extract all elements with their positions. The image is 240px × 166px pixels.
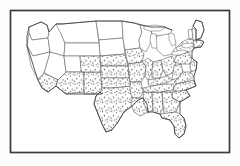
state-nebraska: [100, 54, 128, 66]
state-missouri: [128, 62, 146, 82]
state-north-dakota: [96, 21, 123, 40]
figure-root: United States distribution map Outline m…: [0, 0, 240, 166]
state-south-dakota: [99, 38, 125, 56]
us-map-figure: [0, 0, 240, 166]
state-kansas: [101, 66, 129, 78]
state-new-mexico: [84, 72, 102, 94]
state-colorado: [80, 56, 101, 72]
state-alabama: [152, 92, 163, 114]
state-iowa: [125, 48, 144, 64]
state-new-hampshire: [192, 29, 196, 40]
state-minnesota: [122, 21, 142, 50]
state-wyoming: [64, 43, 100, 56]
state-arkansas: [130, 82, 143, 98]
